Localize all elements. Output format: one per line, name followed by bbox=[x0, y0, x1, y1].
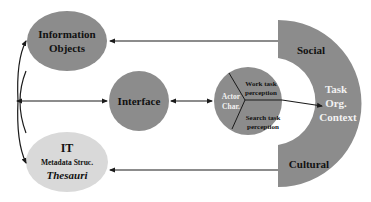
arrow-left-bracket bbox=[20, 71, 26, 133]
context-label: Context bbox=[319, 111, 357, 123]
work-task-label-1: Work task bbox=[245, 80, 276, 88]
actor-char-label-2: Char. bbox=[222, 102, 240, 111]
work-task-label-2: perception bbox=[245, 89, 277, 97]
information-objects-label-1: Information bbox=[38, 28, 95, 40]
task-label: Task bbox=[325, 83, 348, 95]
metadata-label: Metadata Struc. bbox=[41, 158, 93, 167]
social-label: Social bbox=[297, 44, 325, 56]
thesauri-label: Thesauri bbox=[47, 169, 89, 181]
interface-label: Interface bbox=[118, 95, 161, 107]
it-label: IT bbox=[61, 141, 74, 155]
diagram-canvas: Information Objects Interface Actor Char… bbox=[0, 0, 371, 202]
arrow-left-bottom bbox=[18, 101, 26, 163]
org-label: Org. bbox=[325, 97, 347, 109]
information-objects-node bbox=[27, 11, 107, 71]
cultural-label: Cultural bbox=[289, 158, 329, 170]
search-task-label-1: Search task bbox=[246, 114, 281, 122]
actor-char-label-1: Actor bbox=[222, 92, 241, 101]
information-objects-label-2: Objects bbox=[49, 42, 86, 54]
arrow-left-top bbox=[18, 41, 26, 101]
search-task-label-2: perception bbox=[247, 123, 279, 131]
